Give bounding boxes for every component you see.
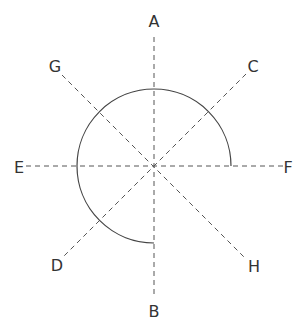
label-b: B — [149, 302, 160, 321]
label-d: D — [51, 256, 63, 275]
line-c-d — [64, 74, 246, 256]
label-e: E — [14, 158, 24, 177]
label-g: G — [49, 57, 61, 76]
label-h: H — [248, 257, 260, 276]
label-f: F — [283, 158, 292, 177]
direction-diagram: A B C D E F G H — [0, 0, 303, 330]
label-c: C — [247, 57, 258, 76]
label-a: A — [149, 12, 160, 31]
